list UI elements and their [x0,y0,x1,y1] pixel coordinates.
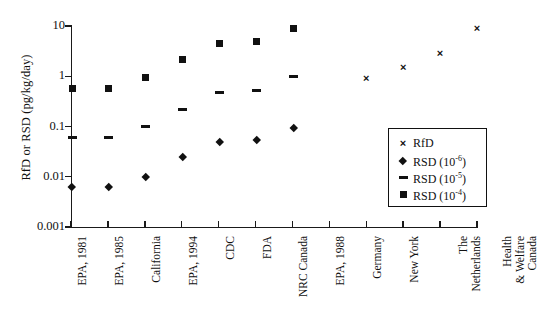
data-point-cross: × [362,74,371,83]
data-point-cross: × [436,49,445,58]
legend-label: RSD (10-4) [413,186,466,203]
x-category-label: CDC [224,236,237,325]
x-tick-mark [70,221,71,228]
x-tick-mark [329,221,330,228]
data-point-dash [178,108,187,111]
data-point-dash [215,91,224,94]
data-point-diamond [253,136,261,144]
legend-label: RfD [413,137,434,150]
x-category-label: FDA [261,236,274,325]
data-point-square [179,56,186,63]
legend-label: RSD (10-6) [413,152,466,169]
data-point-cross: × [473,24,482,33]
data-point-dash [104,136,113,139]
y-tick-mark [65,76,72,77]
dash-icon [397,172,409,184]
data-point-cross: × [399,63,408,72]
data-point-dash [289,75,298,78]
data-point-diamond [142,173,150,181]
legend-entry: RSD (10-4) [397,186,466,203]
x-tick-mark [144,221,145,228]
x-axis-line [71,227,477,228]
x-category-label: Health & Welfare Canada [501,236,539,325]
x-category-label: NRC Canada [297,236,310,325]
x-tick-mark [476,221,477,228]
data-point-square [290,25,297,32]
legend-entry: RSD (10-5) [397,169,466,186]
data-point-square [69,85,76,92]
y-tick-mark [65,126,72,127]
data-point-diamond [68,183,76,191]
x-category-label: Germany [371,236,384,325]
y-tick-label: 0.001 [17,220,65,232]
diamond-icon [397,155,409,167]
x-category-label: EPA, 1981 [76,236,89,325]
x-category-label: The Netherlands [457,236,482,325]
y-tick-mark [65,25,72,26]
legend-box: ×RfDRSD (10-6)RSD (10-5)RSD (10-4) [388,128,487,207]
y-tick-mark [65,176,72,177]
data-point-dash [141,125,150,128]
data-point-diamond [290,124,298,132]
data-point-square [253,38,260,45]
y-tick-label: 1 [17,69,65,81]
x-tick-mark [218,221,219,228]
legend-entry: ×RfD [397,135,434,152]
data-point-diamond [105,183,113,191]
data-point-dash [68,136,77,139]
legend-entry: RSD (10-6) [397,152,466,169]
square-icon [397,189,409,201]
cross-icon: × [397,138,409,150]
y-axis-title: RfD or RSD (pg/kg/day) [19,18,34,218]
x-tick-mark [402,221,403,228]
data-point-dash [252,89,261,92]
data-point-diamond [179,153,187,161]
y-tick-label: 10 [17,19,65,31]
x-tick-mark [439,221,440,228]
y-tick-label: 0.01 [17,170,65,182]
x-tick-mark [292,221,293,228]
x-tick-mark [107,221,108,228]
x-category-label: EPA, 1994 [187,236,200,325]
x-category-label: New York [408,236,421,325]
data-point-square [216,40,223,47]
y-tick-label: 0.1 [17,120,65,132]
x-tick-mark [255,221,256,228]
data-point-square [105,85,112,92]
data-point-diamond [216,138,224,146]
x-category-label: EPA, 1985 [113,236,126,325]
x-category-label: EPA, 1988 [334,236,347,325]
x-tick-mark [366,221,367,228]
data-point-square [142,74,149,81]
legend-label: RSD (10-5) [413,169,466,186]
x-category-label: California [150,236,163,325]
x-tick-mark [181,221,182,228]
